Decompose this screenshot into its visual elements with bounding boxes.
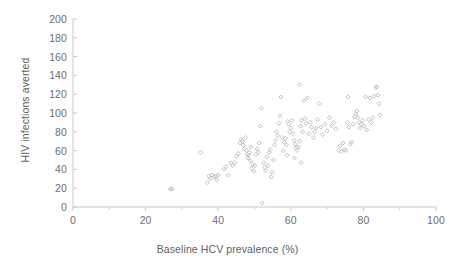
data-point: [332, 120, 336, 124]
data-point: [368, 96, 372, 100]
scatter-plot-canvas: [0, 0, 455, 268]
data-point: [299, 119, 303, 123]
data-point: [319, 125, 323, 129]
data-point: [327, 116, 331, 120]
data-point: [257, 141, 261, 145]
data-point: [253, 164, 257, 168]
x-axis-title: Baseline HCV prevalence (%): [0, 243, 455, 255]
data-point: [205, 181, 209, 185]
data-point: [302, 99, 306, 103]
data-point: [240, 139, 244, 143]
data-point: [299, 124, 303, 128]
data-point: [255, 147, 259, 151]
data-point-markers: [168, 83, 382, 205]
data-point: [249, 145, 253, 149]
data-point: [321, 133, 325, 137]
data-point: [378, 113, 382, 117]
data-point: [365, 128, 369, 132]
data-point: [299, 161, 303, 165]
data-point: [279, 95, 283, 99]
data-point: [305, 96, 309, 100]
data-point: [357, 120, 361, 124]
data-point: [269, 175, 273, 179]
data-point: [254, 152, 258, 156]
data-point: [351, 122, 355, 126]
data-point: [270, 170, 274, 174]
chart-figure: 020406080100120140160180200 020406080100…: [0, 0, 455, 268]
data-point: [358, 126, 362, 130]
data-point: [334, 127, 338, 131]
data-point: [341, 141, 345, 145]
data-point: [346, 95, 350, 99]
data-point: [371, 116, 375, 120]
data-point: [242, 147, 246, 151]
data-point: [298, 83, 302, 87]
y-axis-title-wrap: HIV infections averted: [2, 0, 22, 214]
data-point: [303, 117, 307, 121]
data-point: [329, 124, 333, 128]
data-point: [277, 121, 281, 125]
data-point: [278, 114, 282, 118]
data-point: [316, 118, 320, 122]
data-point: [199, 150, 203, 154]
data-point: [226, 173, 230, 177]
data-point: [301, 130, 305, 134]
data-point: [304, 121, 308, 125]
data-point: [276, 134, 280, 138]
data-point: [298, 139, 302, 143]
data-point: [350, 140, 354, 144]
data-point: [281, 149, 285, 153]
data-point: [308, 120, 312, 124]
data-point: [369, 120, 373, 124]
data-point: [293, 142, 297, 146]
data-point: [307, 132, 311, 136]
data-point: [260, 201, 264, 205]
data-point: [262, 161, 266, 165]
data-point: [372, 94, 376, 98]
data-point: [338, 144, 342, 148]
y-axis-title: HIV infections averted: [19, 35, 31, 185]
data-point: [296, 145, 300, 149]
data-point: [311, 135, 315, 139]
data-point: [290, 119, 294, 123]
data-point: [347, 125, 351, 129]
data-point: [285, 153, 289, 157]
data-point: [317, 102, 321, 106]
data-point: [292, 138, 296, 142]
data-point: [271, 158, 275, 162]
data-point: [289, 126, 293, 130]
data-point: [259, 106, 263, 110]
data-point: [274, 138, 278, 142]
axis-lines: [73, 19, 436, 207]
data-point: [275, 130, 279, 134]
data-point: [377, 102, 381, 106]
data-point: [258, 124, 262, 128]
data-point: [323, 122, 327, 126]
data-point: [272, 143, 276, 147]
data-point: [292, 156, 296, 160]
data-point: [366, 118, 370, 122]
data-point: [256, 150, 260, 154]
data-point: [376, 93, 380, 97]
data-point: [265, 155, 269, 159]
data-point: [325, 129, 329, 133]
data-point: [310, 125, 314, 129]
data-point: [243, 135, 247, 139]
data-point: [364, 95, 368, 99]
data-point: [345, 120, 349, 124]
